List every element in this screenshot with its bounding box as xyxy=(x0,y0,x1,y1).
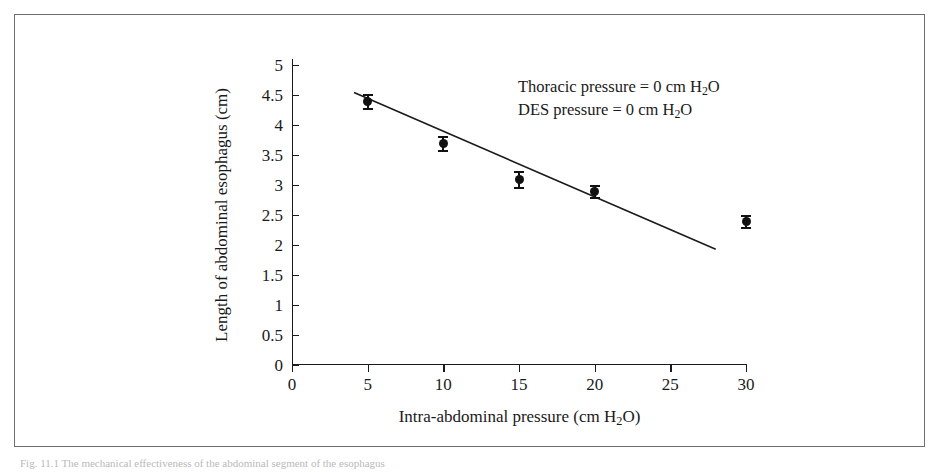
error-bar-cap xyxy=(438,136,448,138)
error-bar-cap xyxy=(590,197,600,199)
y-tick-label: 4 xyxy=(275,117,284,134)
y-tick-label: 2.5 xyxy=(262,207,283,224)
x-tick-label: 30 xyxy=(738,376,755,393)
annotation-des-pressure: DES pressure = 0 cm H2O xyxy=(518,99,720,122)
x-tick-mark xyxy=(292,365,293,372)
y-tick-label: 0 xyxy=(275,357,284,374)
x-tick-mark xyxy=(443,365,444,372)
x-tick-label: 25 xyxy=(662,376,679,393)
error-bar-cap xyxy=(363,94,373,96)
figure-border: Length of abdominal esophagus (cm) 00.51… xyxy=(14,14,925,447)
x-tick-label: 20 xyxy=(586,376,603,393)
x-tick-label: 5 xyxy=(363,376,372,393)
y-axis-title-text: Length of abdominal esophagus (cm) xyxy=(212,88,231,342)
x-axis-title: Intra-abdominal pressure (cm H2O) xyxy=(292,408,747,428)
y-tick-label: 0.5 xyxy=(262,327,283,344)
data-point xyxy=(439,139,448,148)
error-bar-cap xyxy=(514,187,524,189)
annotation-thoracic-pressure: Thoracic pressure = 0 cm H2O xyxy=(518,76,720,99)
data-point xyxy=(515,175,524,184)
y-tick-label: 1 xyxy=(275,297,284,314)
x-tick-mark xyxy=(670,365,671,372)
x-axis-title-before: Intra-abdominal pressure (cm H xyxy=(399,407,617,426)
error-bar-cap xyxy=(438,150,448,152)
figure-caption: Fig. 11.1 The mechanical effectiveness o… xyxy=(20,457,926,470)
annotation-thoracic-text-after: O xyxy=(708,77,720,96)
y-tick-label: 3.5 xyxy=(262,147,283,164)
x-tick-mark xyxy=(595,365,596,372)
x-tick-label: 10 xyxy=(435,376,452,393)
error-bar-cap xyxy=(741,227,751,229)
y-tick-label: 1.5 xyxy=(262,267,283,284)
plot-area: 00.511.522.533.544.55 051015202530 Thora… xyxy=(292,65,746,365)
y-axis-title: Length of abdominal esophagus (cm) xyxy=(211,65,233,365)
data-point xyxy=(590,187,599,196)
data-point xyxy=(742,217,751,226)
x-tick-label: 0 xyxy=(288,376,297,393)
x-tick-mark xyxy=(519,365,520,372)
figure-root: Length of abdominal esophagus (cm) 00.51… xyxy=(0,0,946,472)
y-tick-label: 3 xyxy=(275,177,284,194)
annotation-thoracic-text-before: Thoracic pressure = 0 cm H xyxy=(518,77,702,96)
y-tick-label: 2 xyxy=(275,237,284,254)
x-tick-label: 15 xyxy=(511,376,528,393)
annotation-des-text-after: O xyxy=(680,100,692,119)
x-tick-mark xyxy=(368,365,369,372)
y-tick-label: 5 xyxy=(275,57,284,74)
error-bar-cap xyxy=(363,108,373,110)
error-bar-cap xyxy=(514,171,524,173)
data-point xyxy=(363,97,372,106)
y-tick-label: 4.5 xyxy=(262,87,283,104)
annotation-des-text-before: DES pressure = 0 cm H xyxy=(518,100,674,119)
annotation-block: Thoracic pressure = 0 cm H2O DES pressur… xyxy=(518,76,720,121)
x-axis-title-after: O) xyxy=(622,407,640,426)
x-tick-mark xyxy=(746,365,747,372)
